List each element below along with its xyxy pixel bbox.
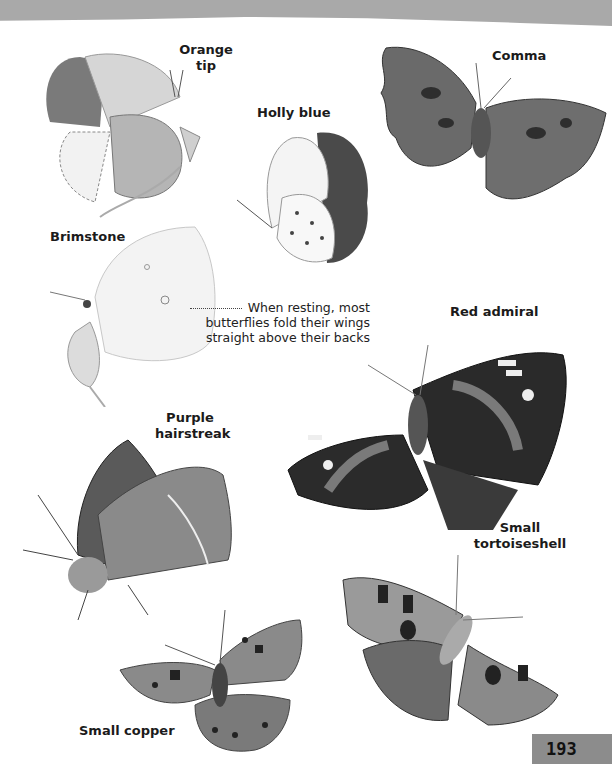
header-strip [0, 0, 612, 26]
red-admiral-illustration [278, 340, 573, 535]
small-copper-label: Small copper [79, 723, 175, 739]
label-line: tortoiseshell [470, 536, 570, 552]
label-line: Orange [176, 42, 236, 58]
small-tortoiseshell-label: Small tortoiseshell [470, 520, 570, 552]
label-line: Small [470, 520, 570, 536]
label-line: Purple [155, 410, 225, 426]
orange-tip-label: Orange tip [176, 42, 236, 74]
holly-blue-illustration [232, 128, 377, 273]
label-line: tip [176, 58, 236, 74]
page-number: 193 [532, 734, 612, 764]
small-tortoiseshell-illustration [338, 555, 563, 740]
comma-illustration [376, 38, 612, 213]
holly-blue-label: Holly blue [257, 105, 331, 121]
orange-tip-illustration [40, 52, 210, 222]
red-admiral-label: Red admiral [450, 304, 538, 320]
purple-hairstreak-illustration [18, 435, 248, 625]
resting-note: When resting, most butterflies fold thei… [190, 300, 370, 345]
